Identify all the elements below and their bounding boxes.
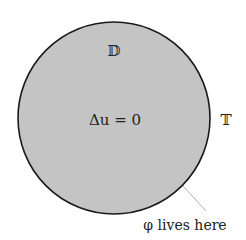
region-label: 𝔻 [107,42,120,60]
laplace-equation: Δu = 0 [89,111,141,129]
annotation-label: φ lives here [143,217,226,233]
leader-line [183,186,206,211]
boundary-label: 𝕋 [220,111,232,129]
disk-diagram: 𝔻 Δu = 0 𝕋 φ lives here [0,0,246,240]
diagram-canvas: 𝔻 Δu = 0 𝕋 φ lives here [0,0,246,240]
